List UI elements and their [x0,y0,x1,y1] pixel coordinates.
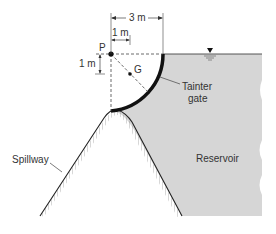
gate-label-line2: gate [188,93,208,104]
dimension-1m-horizontal-label: 1 m [112,27,129,38]
spillway-leader-line [50,163,62,172]
gate-label-line1: Tainter [182,81,213,92]
pivot-label: P [99,42,106,53]
centroid-label: G [134,64,142,75]
centroid-point [128,72,132,76]
tainter-gate-diagram: P G 3 m 1 m 1 m Tainter gate Reservoir S… [0,0,276,234]
dimension-3m-label: 3 m [129,12,146,23]
reservoir-label: Reservoir [196,153,239,164]
dimension-1m-vertical-label: 1 m [79,58,96,69]
dimension-1m-vertical [95,54,105,74]
spillway-label: Spillway [12,154,49,165]
